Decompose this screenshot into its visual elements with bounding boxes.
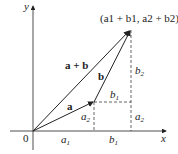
label-x-a1: a1 [61,133,70,147]
point-label: (a1 + b1, a2 + b2) [100,12,178,25]
label-inner-a2: a2 [81,110,91,124]
origin-label: 0 [23,132,29,144]
label-x-b1: b1 [109,133,118,147]
vector-a-label: a [67,100,73,112]
vector-b-label: b [98,70,104,82]
vector-a-plus-b-label: a + b [65,59,88,71]
vector-addition-diagram: y x 0 a + b b a (a1 + b1, a2 + b2) a1 b1… [0,0,178,154]
x-axis-label: x [160,132,166,144]
y-axis-label: y [23,0,29,12]
label-inner-b1: b1 [110,88,119,102]
label-right-b2: b2 [135,64,145,78]
label-right-a2: a2 [135,110,145,124]
